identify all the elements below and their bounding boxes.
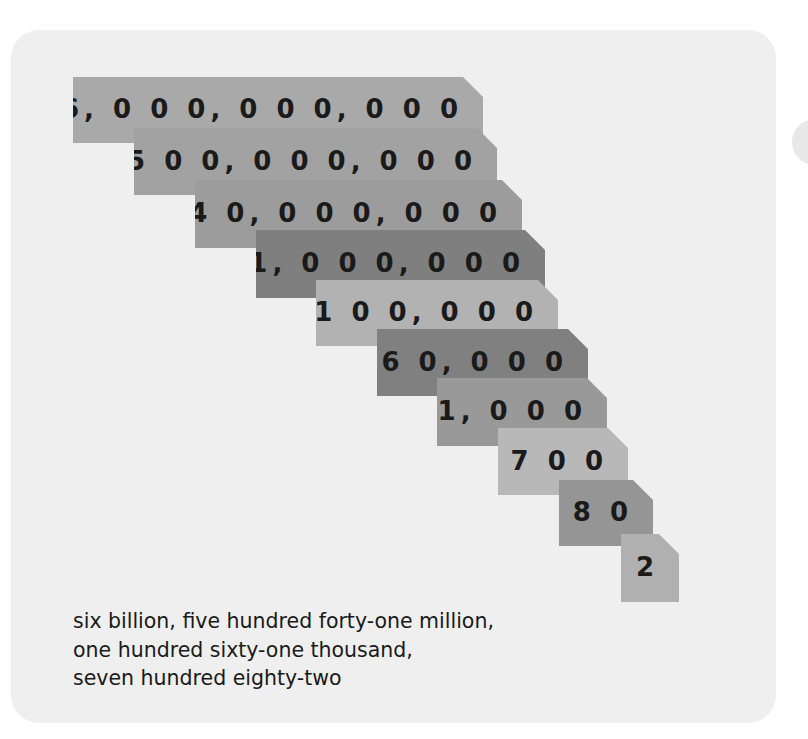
bar-label: 2 xyxy=(636,554,659,580)
bar-label: 6, 0 0 0, 0 0 0, 0 0 0 xyxy=(61,96,463,122)
caption-line-2: one hundred sixty-one thousand, xyxy=(73,636,494,665)
bar-label: 1, 0 0 0, 0 0 0 xyxy=(249,250,525,276)
caption-line-3: seven hundred eighty-two xyxy=(73,664,494,693)
diagram-stage: 6, 0 0 0, 0 0 0, 0 0 0 5 0 0, 0 0 0, 0 0… xyxy=(0,0,808,739)
bar-label: 8 0 xyxy=(573,499,633,525)
bar-label: 6 0, 0 0 0 xyxy=(381,349,568,375)
bar-label: 5 0 0, 0 0 0, 0 0 0 xyxy=(127,148,477,174)
bar-label: 1 0 0, 0 0 0 xyxy=(314,299,538,325)
bar-label: 1, 0 0 0 xyxy=(438,398,587,424)
bar-label: 4 0, 0 0 0, 0 0 0 xyxy=(189,200,502,226)
bar-label: 7 0 0 xyxy=(511,448,608,474)
number-in-words: six billion, five hundred forty-one mill… xyxy=(73,607,494,693)
caption-line-1: six billion, five hundred forty-one mill… xyxy=(73,607,494,636)
decorative-circle xyxy=(792,120,808,164)
